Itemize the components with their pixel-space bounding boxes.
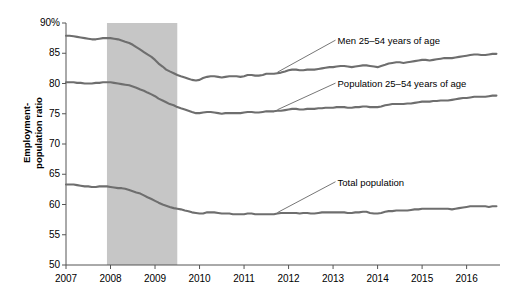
total-population-label: Total population <box>338 177 405 188</box>
population-25-54-label: Population 25–54 years of age <box>338 78 467 89</box>
annotation-layer: Men 25–54 years of agePopulation 25–54 y… <box>0 0 508 301</box>
employment-population-ratio-chart: Employment- population ratio 90%85807570… <box>0 0 508 301</box>
men-25-54-label: Men 25–54 years of age <box>338 35 440 46</box>
